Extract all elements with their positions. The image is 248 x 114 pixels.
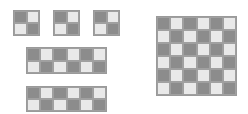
light-cell xyxy=(27,11,40,23)
light-cell xyxy=(14,23,27,35)
light-cell xyxy=(183,56,196,69)
light-cell xyxy=(40,48,53,61)
dark-cell xyxy=(27,23,40,35)
dark-cell xyxy=(27,87,40,99)
light-cell xyxy=(197,69,210,82)
light-cell xyxy=(223,43,236,56)
light-cell xyxy=(157,56,170,69)
light-cell xyxy=(210,56,223,69)
dark-cell xyxy=(53,48,66,61)
dark-cell xyxy=(183,17,196,30)
light-cell xyxy=(157,30,170,43)
dark-cell xyxy=(27,48,40,61)
light-cell xyxy=(183,30,196,43)
light-cell xyxy=(107,11,120,23)
light-cell xyxy=(170,17,183,30)
dark-cell xyxy=(157,17,170,30)
dark-cell xyxy=(14,11,27,23)
dark-cell xyxy=(80,87,93,99)
light-cell xyxy=(94,23,107,35)
small-checker-square-1 xyxy=(13,10,40,36)
dark-cell xyxy=(210,17,223,30)
light-cell xyxy=(40,87,53,99)
light-cell xyxy=(197,43,210,56)
light-cell xyxy=(223,69,236,82)
dark-cell xyxy=(80,48,93,61)
dark-cell xyxy=(183,43,196,56)
checker-rectangle-2 xyxy=(26,86,107,112)
light-cell xyxy=(210,82,223,95)
dark-cell xyxy=(170,30,183,43)
dark-cell xyxy=(170,56,183,69)
light-cell xyxy=(93,48,106,61)
light-cell xyxy=(67,87,80,99)
dark-cell xyxy=(210,69,223,82)
dark-cell xyxy=(67,61,80,74)
dark-cell xyxy=(210,43,223,56)
light-cell xyxy=(210,30,223,43)
light-cell xyxy=(157,82,170,95)
light-cell xyxy=(197,17,210,30)
dark-cell xyxy=(183,69,196,82)
dark-cell xyxy=(67,99,80,111)
dark-cell xyxy=(223,30,236,43)
large-checker-square xyxy=(156,16,237,96)
light-cell xyxy=(183,82,196,95)
small-checker-square-2 xyxy=(53,10,80,36)
dark-cell xyxy=(40,99,53,111)
light-cell xyxy=(67,11,80,23)
dark-cell xyxy=(197,30,210,43)
dark-cell xyxy=(223,56,236,69)
dark-cell xyxy=(53,87,66,99)
small-checker-square-3 xyxy=(93,10,120,36)
dark-cell xyxy=(94,11,107,23)
light-cell xyxy=(67,48,80,61)
light-cell xyxy=(170,43,183,56)
dark-cell xyxy=(197,56,210,69)
light-cell xyxy=(27,61,40,74)
dark-cell xyxy=(197,82,210,95)
dark-cell xyxy=(40,61,53,74)
checker-rectangle-1 xyxy=(26,47,107,74)
dark-cell xyxy=(93,99,106,111)
dark-cell xyxy=(107,23,120,35)
light-cell xyxy=(53,61,66,74)
light-cell xyxy=(93,87,106,99)
dark-cell xyxy=(170,82,183,95)
light-cell xyxy=(223,17,236,30)
dark-cell xyxy=(93,61,106,74)
dark-cell xyxy=(223,82,236,95)
dark-cell xyxy=(67,23,80,35)
light-cell xyxy=(53,99,66,111)
light-cell xyxy=(80,99,93,111)
dark-cell xyxy=(54,11,67,23)
dark-cell xyxy=(157,69,170,82)
light-cell xyxy=(27,99,40,111)
light-cell xyxy=(54,23,67,35)
light-cell xyxy=(80,61,93,74)
light-cell xyxy=(170,69,183,82)
dark-cell xyxy=(157,43,170,56)
